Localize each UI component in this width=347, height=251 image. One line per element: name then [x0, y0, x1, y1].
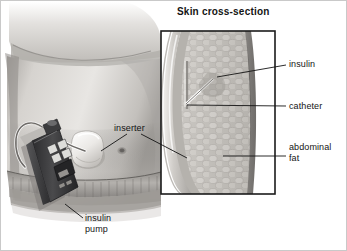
inset-title: Skin cross-section: [177, 7, 270, 18]
skin-cross-section-inset: [161, 31, 275, 194]
label-insulin-pump: insulin pump: [85, 213, 111, 234]
label-catheter: catheter: [289, 101, 322, 112]
label-insulin: insulin: [289, 59, 315, 70]
inserter-patch-icon: [71, 131, 105, 169]
illustration-figure: Skin cross-section insulin catheter abdo…: [0, 0, 347, 251]
cross-section-artwork: [161, 31, 275, 194]
illustration-canvas: Skin cross-section insulin catheter abdo…: [1, 1, 346, 250]
illustration-artwork: [1, 1, 347, 251]
label-abdominal-fat: abdominal fat: [289, 142, 331, 163]
label-inserter: inserter: [114, 123, 145, 134]
